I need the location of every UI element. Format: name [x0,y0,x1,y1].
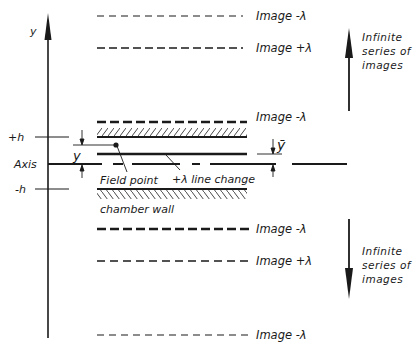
upper-series-note-line3: images [362,59,403,71]
lower-series-note-line2: series of [362,259,413,271]
upper-chamber-wall [97,128,247,137]
lower-chamber-wall [97,189,247,199]
y-axis [45,13,52,338]
field-point-pointer [117,146,127,172]
arrow-up-icon [345,28,353,58]
image-label: Image -λ [256,9,307,23]
upper-series-arrow [345,28,353,111]
axis-label: Axis [13,158,37,171]
y-axis-label: y [29,25,37,38]
chamber-wall-label: chamber wall [100,203,174,216]
upper-series-note-line1: Infinite [362,31,403,43]
field-point-label: Field point [100,174,158,187]
image-label: Image -λ [256,110,307,124]
y-dim-label: y [72,148,81,163]
image-label: Image +λ [256,254,312,268]
lower-series-arrow [345,219,353,299]
line-change-label: +λ line change [172,173,255,186]
image-label: Image -λ [256,222,307,236]
lower-series-note-line1: Infinite [362,245,403,257]
upper-series-note-line2: series of [362,45,413,57]
ybar-label: ȳ [276,137,286,153]
line-change-pointer [166,155,180,170]
image-label: Image +λ [256,41,312,55]
image-charge-diagram: y +h -h Axis chamber wall Field point +λ… [0,0,420,352]
y-axis-arrow-icon [45,13,52,40]
lower-series-note-line3: images [362,273,403,285]
plus-h-label: +h [8,131,24,144]
arrow-down-icon [345,268,353,299]
minus-h-label: -h [15,183,26,196]
image-label: Image -λ [256,328,307,342]
field-point-dot [113,142,118,147]
